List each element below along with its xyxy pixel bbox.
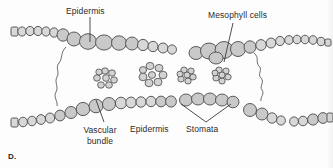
wavy-line-right — [254, 53, 263, 101]
leaf-cross-section-figure: .cell { fill:#c9c9c9; stroke:#4a4a4a; st… — [0, 0, 333, 168]
figure-letter: D. — [8, 152, 17, 161]
epidermis-top-right-chain — [189, 35, 331, 64]
leaf-diagram-svg: .cell { fill:#c9c9c9; stroke:#4a4a4a; st… — [0, 0, 333, 168]
label-stomata: Stomata — [186, 124, 218, 135]
label-vascular-bundle: Vascular bundle — [74, 125, 126, 146]
wavy-line-left — [55, 47, 66, 106]
vascular-bundle-rosette-far-right-small — [212, 67, 231, 84]
epidermis-top-left-chain — [11, 26, 177, 54]
page-edge-shadow — [327, 0, 333, 168]
vascular-bundle-rosette-center — [139, 62, 167, 86]
epidermis-bottom-right-chain — [244, 104, 333, 127]
epidermis-bottom-left-chain — [11, 96, 176, 127]
label-epidermis-bottom: Epidermis — [130, 124, 169, 135]
vascular-bundle-rosette-right-small — [177, 67, 196, 84]
leader-bracket-stomata — [181, 104, 231, 122]
label-mesophyll-cells: Mesophyll cells — [208, 10, 267, 21]
vascular-bundle-rosette-left — [94, 68, 118, 88]
label-epidermis-top: Epidermis — [66, 6, 105, 17]
stomata-cell-group — [180, 93, 240, 108]
